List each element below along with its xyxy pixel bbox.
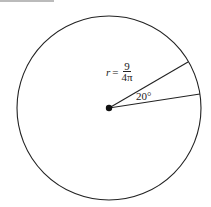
equals-sign: =: [112, 66, 118, 78]
radius-fraction: 9 4π: [122, 61, 133, 82]
radius-variable: r: [106, 66, 110, 78]
circle-diagram: [0, 0, 211, 207]
angle-label: 20°: [136, 90, 151, 102]
radius-label: r = 9 4π: [106, 61, 133, 82]
radius-line-lower: [109, 94, 200, 108]
fraction-denominator: 4π: [122, 72, 133, 82]
center-point: [106, 105, 112, 111]
